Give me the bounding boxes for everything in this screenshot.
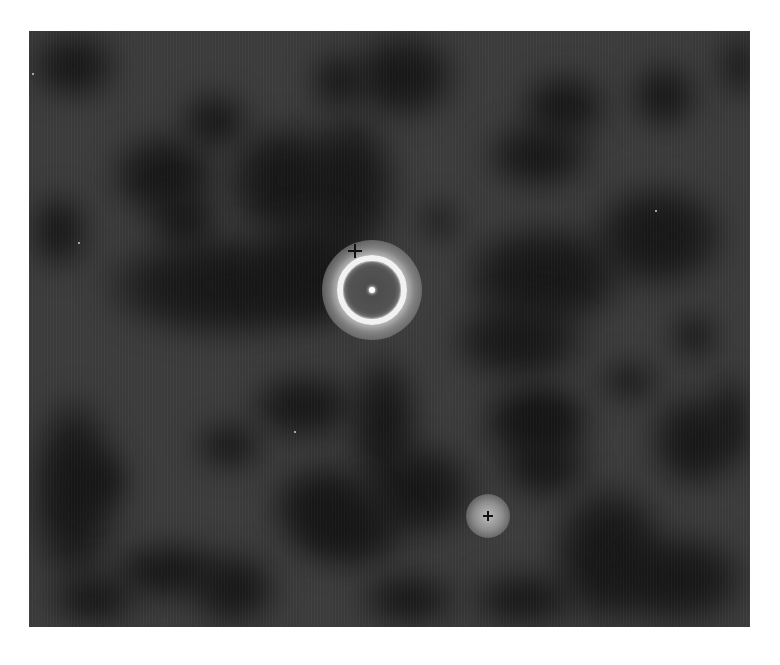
dark-cloud	[289, 491, 409, 571]
dark-cloud	[629, 61, 699, 131]
dark-cloud	[609, 531, 749, 627]
dark-cloud	[309, 51, 369, 111]
cross-marker-ring-icon	[348, 244, 362, 258]
dark-cloud	[29, 191, 89, 271]
dark-cloud	[469, 571, 579, 627]
faint-star	[655, 210, 657, 212]
dark-cloud	[49, 571, 139, 627]
dark-cloud	[189, 551, 279, 627]
cross-marker-source-icon	[483, 511, 493, 521]
dark-cloud	[249, 371, 359, 441]
dark-cloud	[589, 181, 729, 291]
dark-cloud	[649, 391, 739, 491]
dark-cloud	[499, 431, 589, 501]
dark-cloud	[69, 451, 129, 511]
dark-cloud	[29, 31, 119, 101]
faint-star	[78, 242, 80, 244]
caption	[29, 655, 750, 665]
dark-cloud	[359, 571, 459, 627]
central-star	[369, 287, 375, 293]
dark-cloud	[419, 201, 459, 241]
faint-star	[32, 73, 34, 75]
dark-cloud	[449, 301, 589, 381]
dark-cloud	[719, 31, 750, 101]
faint-star	[294, 431, 296, 433]
dark-cloud	[669, 311, 719, 361]
dark-cloud	[484, 121, 594, 191]
dark-cloud	[599, 361, 659, 401]
astronomical-image	[29, 31, 750, 627]
dark-cloud	[194, 421, 264, 471]
